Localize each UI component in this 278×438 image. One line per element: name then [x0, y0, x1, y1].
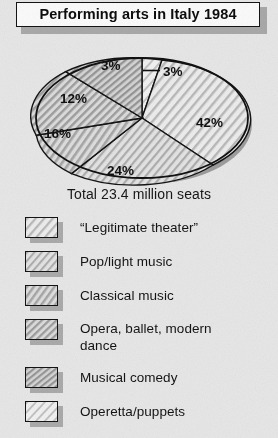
- chart-caption: Total 23.4 million seats: [0, 186, 278, 202]
- swatch-frame: [25, 251, 58, 272]
- swatch-frame: [25, 285, 58, 306]
- legend-item-4[interactable]: Musical comedy: [0, 367, 278, 397]
- legend-swatch-legitimate-theater: [25, 217, 63, 243]
- legend-label-0: “Legitimate theater”: [80, 220, 270, 236]
- pie-label-operetta-puppets: 3%: [163, 64, 183, 79]
- legend-swatch-operetta-puppets: [25, 401, 63, 427]
- legend-label-4: Musical comedy: [80, 370, 270, 386]
- pie-label-legitimate-theater: 42%: [196, 115, 223, 130]
- legend-item-3[interactable]: Opera, ballet, modern dance: [0, 319, 278, 365]
- legend-item-5[interactable]: Operetta/puppets: [0, 401, 278, 431]
- swatch-frame: [25, 217, 58, 238]
- legend-item-2[interactable]: Classical music: [0, 285, 278, 315]
- legend-label-5: Operetta/puppets: [80, 404, 270, 420]
- pie-chart-svg: 3% 42% 24% 16% 12% 3%: [0, 40, 278, 190]
- swatch-frame: [25, 367, 58, 388]
- pie-label-pop-light-music: 24%: [107, 163, 134, 178]
- legend-item-0[interactable]: “Legitimate theater”: [0, 217, 278, 247]
- title-box-frame: Performing arts in Italy 1984: [16, 2, 260, 27]
- legend-item-1[interactable]: Pop/light music: [0, 251, 278, 281]
- legend-label-3: Opera, ballet, modern dance: [80, 320, 270, 354]
- pie-label-opera-ballet-modern-dance: 12%: [60, 91, 87, 106]
- pie-label-classical-music: 16%: [44, 126, 71, 141]
- legend-label-1: Pop/light music: [80, 254, 270, 270]
- legend-label-2: Classical music: [80, 288, 270, 304]
- chart-title-box: Performing arts in Italy 1984: [16, 2, 262, 29]
- legend-swatch-musical-comedy: [25, 367, 63, 393]
- page-title: Performing arts in Italy 1984: [39, 7, 236, 22]
- legend-swatch-classical-music: [25, 285, 63, 311]
- pie-chart: 3% 42% 24% 16% 12% 3%: [0, 40, 278, 190]
- legend-swatch-opera-ballet-modern-dance: [25, 319, 63, 345]
- chart-page: Performing arts in Italy 1984: [0, 0, 278, 438]
- swatch-frame: [25, 401, 58, 422]
- swatch-frame: [25, 319, 58, 340]
- pie-label-musical-comedy: 3%: [101, 58, 121, 73]
- legend-swatch-pop-light-music: [25, 251, 63, 277]
